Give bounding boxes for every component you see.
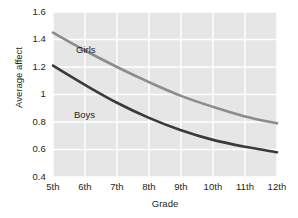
y-axis-tick-0-4: 0.4	[8, 171, 46, 182]
x-axis-tick-12th: 12th	[257, 181, 297, 192]
y-axis-title: Average affect	[13, 28, 24, 128]
y-axis-tick-1-6: 1.6	[8, 6, 46, 17]
y-axis-tick-0-6: 0.6	[8, 143, 46, 154]
series-label-girls: Girls	[76, 44, 96, 55]
series-label-boys: Boys	[74, 109, 95, 120]
x-axis-title: Grade	[53, 198, 277, 209]
chart-container: 1.61.41.210.80.60.4 5th6th7th8th9th10th1…	[0, 0, 298, 218]
